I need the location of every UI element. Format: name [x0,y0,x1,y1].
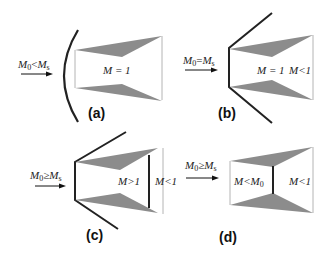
panel-caption-a: (a) [88,106,105,120]
inflow-condition-c: M0≥Ms [30,170,62,183]
panel-caption-c: (c) [86,228,103,242]
panel-caption-b: (b) [218,106,236,120]
mach-symbol: M [18,58,27,70]
inflow-condition-b: M0=Ms [183,55,215,68]
mach-symbol: M [49,169,58,181]
lower-wedge [75,193,158,213]
region-label-b1: M = 1 [257,65,285,76]
region-label-c1: M>1 [118,176,140,187]
mach-subscript: s [212,59,215,68]
mach-subscript: s [213,164,216,173]
mach-symbol: M [30,169,39,181]
diagram-graphics [0,0,332,259]
bow-shock-curve [64,30,78,122]
inflow-arrow-head [212,176,219,181]
mach-symbol: M [183,54,192,66]
mach-symbol: M [204,159,213,171]
region-label-text: M<M [234,175,260,187]
region-label-c2: M<1 [155,176,177,187]
inflow-arrow-head [211,68,218,73]
region-label-d1: M<M0 [234,176,264,189]
panel-caption-d: (d) [219,230,237,244]
mach-subscript: 0 [260,180,264,189]
mach-subscript: s [58,174,61,183]
region-label-a1: M = 1 [103,65,131,76]
mach-symbol: M [202,54,211,66]
lower-wedge [75,84,162,101]
inflow-condition-a: M0<Ms [18,59,50,72]
lower-wedge [230,193,313,213]
mach-symbol: M [37,58,46,70]
region-label-b2: M<1 [289,65,311,76]
upper-wedge [75,36,162,57]
inflow-condition-d: M0≥Ms [185,160,217,173]
inflow-arrow-head [59,184,66,189]
inflow-arrow-head [46,72,53,77]
upper-wedge [75,148,158,170]
upper-wedge [230,147,313,167]
region-label-d2: M<1 [289,176,311,187]
inlet-shock-diagram: M0<Ms M = 1 (a) M0=Ms M = 1 M<1 (b) M0≥M… [0,0,332,259]
mach-symbol: M [185,159,194,171]
mach-subscript: s [47,63,50,72]
